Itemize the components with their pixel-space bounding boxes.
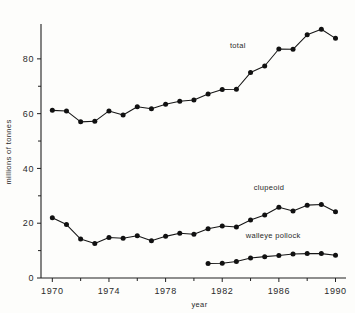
x-tick-label: 1986 — [268, 286, 290, 296]
data-point — [191, 232, 196, 237]
y-tick-label: 40 — [23, 164, 34, 174]
data-point — [121, 113, 126, 118]
data-point — [319, 27, 324, 32]
x-tick-label: 1982 — [211, 286, 233, 296]
data-point — [92, 119, 97, 124]
y-axis-title: millions of tonnes — [4, 119, 13, 184]
x-axis-title: year — [191, 300, 207, 309]
chart-figure: 020406080 197019741978198219861990 year … — [0, 0, 355, 313]
series-line-total — [52, 29, 335, 122]
x-axis-tick-labels: 197019741978198219861990 — [41, 286, 347, 296]
data-point — [50, 215, 55, 220]
data-point — [248, 70, 253, 75]
data-point — [163, 234, 168, 239]
data-point — [149, 106, 154, 111]
data-point — [276, 205, 281, 210]
data-point — [319, 251, 324, 256]
y-tick-label: 80 — [23, 54, 34, 64]
data-point — [234, 259, 239, 264]
data-point — [121, 236, 126, 241]
data-point — [106, 235, 111, 240]
data-point — [220, 223, 225, 228]
y-tick-label: 60 — [23, 109, 34, 119]
data-point — [135, 233, 140, 238]
series-label-clupeoid: clupeoid — [254, 183, 284, 192]
data-point — [163, 102, 168, 107]
data-point — [234, 225, 239, 230]
data-point — [276, 253, 281, 258]
data-point — [262, 213, 267, 218]
series-layer — [50, 27, 338, 266]
data-point — [305, 251, 310, 256]
data-point — [220, 261, 225, 266]
data-point — [291, 251, 296, 256]
x-tick-label: 1970 — [41, 286, 63, 296]
series-line-walleye-pollock — [208, 254, 335, 264]
data-point — [220, 87, 225, 92]
data-point — [206, 226, 211, 231]
y-axis-tick-labels: 020406080 — [23, 54, 34, 283]
data-point — [262, 63, 267, 68]
data-point — [135, 104, 140, 109]
data-point — [291, 208, 296, 213]
x-axis-ticks — [52, 278, 335, 282]
data-point — [319, 202, 324, 207]
data-point — [333, 36, 338, 41]
series-walleye-pollock — [206, 251, 338, 266]
data-point — [191, 97, 196, 102]
x-tick-label: 1990 — [324, 286, 346, 296]
data-point — [276, 47, 281, 52]
data-point — [234, 87, 239, 92]
data-point — [206, 261, 211, 266]
data-point — [177, 99, 182, 104]
data-point — [248, 217, 253, 222]
y-tick-label: 0 — [28, 273, 34, 283]
data-point — [78, 237, 83, 242]
data-point — [305, 203, 310, 208]
fishery-catch-line-chart: 020406080 197019741978198219861990 year … — [0, 0, 355, 313]
data-point — [78, 119, 83, 124]
series-label-total: total — [230, 41, 246, 50]
x-tick-label: 1974 — [98, 286, 120, 296]
data-point — [177, 231, 182, 236]
data-point — [206, 91, 211, 96]
data-point — [64, 108, 69, 113]
data-point — [333, 253, 338, 258]
data-point — [333, 209, 338, 214]
data-point — [50, 108, 55, 113]
y-axis-ticks — [37, 59, 41, 278]
data-point — [64, 222, 69, 227]
y-tick-label: 20 — [23, 218, 34, 228]
data-point — [305, 32, 310, 37]
data-point — [291, 47, 296, 52]
x-tick-label: 1978 — [154, 286, 176, 296]
data-point — [262, 254, 267, 259]
series-label-walleye-pollock: walleye pollock — [245, 231, 301, 240]
data-point — [248, 256, 253, 261]
series-total — [50, 27, 338, 125]
data-point — [149, 238, 154, 243]
data-point — [92, 241, 97, 246]
data-point — [106, 108, 111, 113]
